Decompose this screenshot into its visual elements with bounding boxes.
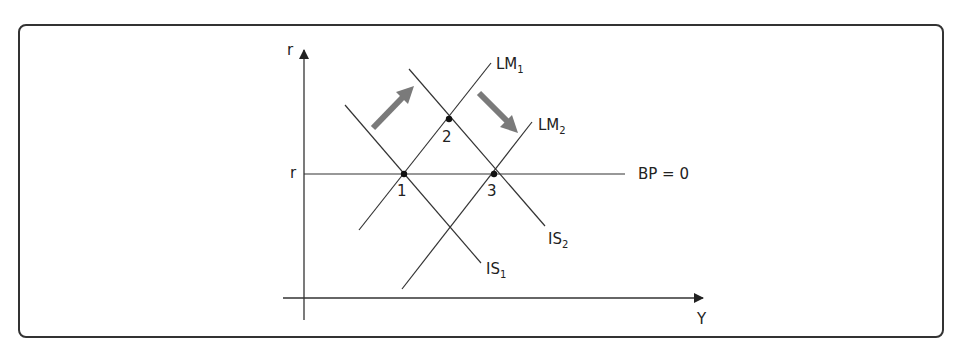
is1-label: IS1 xyxy=(486,260,506,280)
equilibrium-point-2 xyxy=(446,116,452,122)
r-level-label: r xyxy=(290,164,297,182)
x-axis-label: Y xyxy=(696,310,707,328)
equilibrium-point-1 xyxy=(401,171,407,177)
lm1-label: LM1 xyxy=(496,55,524,75)
lm2-curve xyxy=(402,122,532,289)
bp-curve-label: BP = 0 xyxy=(638,165,689,183)
y-axis-label: r xyxy=(287,41,294,59)
lm2-label: LM2 xyxy=(538,116,566,136)
equilibrium-point-3 xyxy=(491,171,497,177)
arrow-down-right-icon xyxy=(479,93,518,133)
is-lm-bp-diagram: r Y r BP = 0 LM1 LM2 IS1 IS2 1 2 3 xyxy=(0,0,962,352)
point-1-label: 1 xyxy=(397,182,407,200)
is2-label: IS2 xyxy=(548,230,568,250)
arrow-up-right-icon xyxy=(373,86,414,128)
point-2-label: 2 xyxy=(442,128,452,146)
point-3-label: 3 xyxy=(487,182,497,200)
